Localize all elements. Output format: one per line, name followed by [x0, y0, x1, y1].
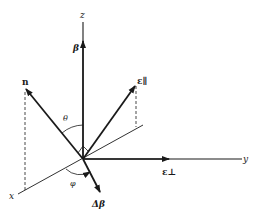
epsilon-perp-label: ε⊥ — [162, 167, 176, 177]
epsilon-parallel-vector — [83, 86, 135, 159]
vector-diagram: z β n ε∥ θ y ε⊥ φ x Δβ — [0, 0, 259, 218]
delta-beta-vector — [83, 159, 100, 192]
theta-arc — [62, 125, 83, 133]
n-label: n — [22, 77, 29, 87]
y-axis-label: y — [242, 154, 249, 164]
epsilon-parallel-label: ε∥ — [137, 76, 147, 86]
x-axis-label: x — [9, 191, 14, 201]
theta-label: θ — [63, 114, 68, 123]
z-axis-label: z — [79, 10, 85, 20]
beta-label: β — [72, 43, 79, 53]
n-vector — [26, 89, 83, 159]
delta-beta-label: Δβ — [91, 199, 105, 209]
phi-arc — [66, 169, 90, 175]
phi-label: φ — [70, 179, 76, 188]
